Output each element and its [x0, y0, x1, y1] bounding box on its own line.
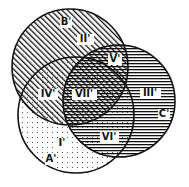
venn-diagram: A' B' C' I' II' III' IV' V' VI' VII' [0, 0, 189, 187]
venn-svg: A' B' C' I' II' III' IV' V' VI' VII' [0, 0, 189, 187]
svg-text:B': B' [61, 16, 72, 27]
region-label-v: V' [108, 53, 122, 65]
svg-text:II': II' [80, 33, 91, 44]
region-label-ii: II' [77, 33, 94, 45]
svg-text:A': A' [46, 153, 57, 164]
set-label-b: B' [60, 16, 72, 28]
region-label-iv: IV' [38, 88, 58, 100]
svg-text:I': I' [59, 137, 66, 148]
svg-text:C': C' [159, 108, 169, 119]
region-label-vi: VI' [100, 131, 119, 143]
region-label-i: I' [57, 137, 68, 149]
region-label-iii: III' [140, 87, 161, 99]
svg-text:VII': VII' [75, 88, 93, 99]
region-label-vii: VII' [72, 88, 97, 100]
svg-text:IV': IV' [41, 88, 56, 99]
set-label-a: A' [45, 153, 57, 165]
set-label-c: C' [158, 108, 170, 120]
svg-text:III': III' [143, 87, 157, 98]
svg-text:VI': VI' [102, 131, 117, 142]
svg-text:V': V' [110, 53, 121, 64]
